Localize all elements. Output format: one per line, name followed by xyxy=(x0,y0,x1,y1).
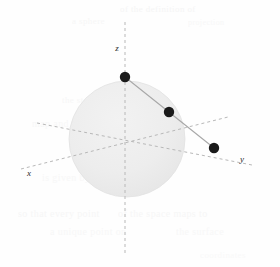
sphere-body xyxy=(69,81,185,197)
axis-label-z: z xyxy=(114,43,119,53)
axis-label-y: y xyxy=(239,154,244,164)
figure-container: of the definition ofa sphereprojectionth… xyxy=(0,0,280,267)
point-plane-point[interactable] xyxy=(209,143,219,153)
point-north-pole[interactable] xyxy=(120,72,130,82)
axis-label-x: x xyxy=(26,168,31,178)
point-sphere-point[interactable] xyxy=(164,107,174,117)
sphere-diagram: z x y xyxy=(0,0,280,267)
